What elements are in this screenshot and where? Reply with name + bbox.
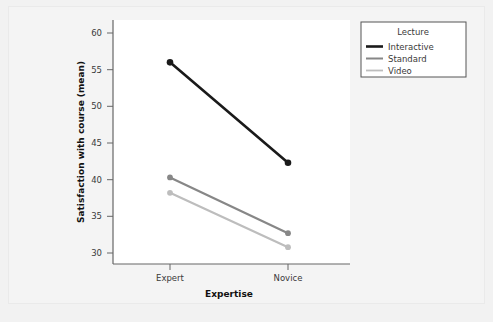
legend-title: Lecture [397,27,429,37]
x-axis-ticks [170,264,288,270]
data-point-video-expert [167,190,173,196]
data-point-interactive-novice [285,160,292,167]
y-tick-label-55: 55 [91,65,102,75]
x-tick-label-expert: Expert [156,273,185,283]
legend-label-video: Video [388,66,412,76]
data-point-interactive-expert [167,59,174,66]
x-tick-label-novice: Novice [274,273,303,283]
y-tick-label-40: 40 [91,175,102,185]
line-chart: 60 55 50 45 40 35 30 Satisfaction with c… [0,0,493,322]
figure-canvas: 60 55 50 45 40 35 30 Satisfaction with c… [0,0,493,322]
legend-label-interactive: Interactive [388,42,434,52]
data-point-standard-novice [285,230,291,236]
data-point-standard-expert [167,175,173,181]
y-axis-ticks [107,33,113,253]
y-tick-label-45: 45 [91,138,102,148]
y-tick-label-60: 60 [91,28,102,38]
y-tick-label-35: 35 [91,211,102,221]
plot-area-background [113,20,350,264]
legend-label-standard: Standard [388,54,427,64]
y-axis-title: Satisfaction with course (mean) [76,61,86,223]
legend: Lecture Interactive Standard Video [361,22,466,77]
x-axis-title: Expertise [205,289,253,299]
y-tick-label-50: 50 [91,101,102,111]
y-tick-label-30: 30 [91,248,102,258]
data-point-video-novice [285,244,291,250]
